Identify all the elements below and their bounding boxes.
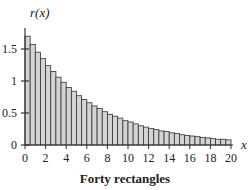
bar	[169, 133, 174, 145]
bar	[210, 139, 215, 145]
bar	[107, 114, 112, 145]
bar	[143, 127, 148, 145]
bar	[46, 66, 51, 145]
bar	[190, 136, 195, 145]
bar	[180, 135, 185, 145]
x-axis-label: x	[240, 137, 247, 152]
y-tick-label: 1	[11, 74, 17, 88]
bar	[97, 109, 102, 145]
bar	[149, 128, 154, 145]
bar	[174, 133, 179, 145]
bar	[92, 106, 97, 145]
bar	[164, 132, 169, 145]
bar	[205, 138, 210, 145]
bar	[221, 139, 226, 145]
bar	[185, 135, 190, 145]
x-tick-label: 8	[104, 151, 110, 165]
bar	[25, 36, 30, 145]
bar	[138, 126, 143, 145]
bar-chart: 00.511.5 02468101214161820 r(x) x	[0, 0, 250, 170]
x-tick-label: 14	[163, 151, 175, 165]
bar	[66, 87, 71, 145]
x-ticks: 02468101214161820	[22, 145, 237, 165]
bar	[77, 96, 82, 145]
bar	[61, 82, 66, 145]
x-tick-label: 12	[143, 151, 155, 165]
bar	[123, 121, 128, 145]
x-tick-label: 20	[225, 151, 237, 165]
bar	[200, 137, 205, 145]
bar	[128, 122, 133, 145]
x-tick-label: 2	[43, 151, 49, 165]
bar	[113, 116, 118, 145]
bar	[102, 112, 107, 145]
x-tick-label: 4	[63, 151, 69, 165]
bar	[118, 118, 123, 145]
x-tick-label: 18	[204, 151, 216, 165]
x-tick-label: 16	[184, 151, 196, 165]
x-tick-label: 10	[122, 151, 134, 165]
y-tick-label: 0	[11, 138, 17, 152]
x-tick-label: 0	[22, 151, 28, 165]
bar	[56, 77, 61, 145]
bar	[40, 59, 45, 145]
bar	[51, 71, 56, 145]
bar	[195, 137, 200, 145]
bar	[159, 131, 164, 145]
chart-caption: Forty rectangles	[0, 171, 250, 187]
y-tick-label: 0.5	[2, 106, 17, 120]
bar	[87, 103, 92, 145]
bar	[154, 130, 159, 145]
bars	[25, 36, 231, 145]
bar	[71, 91, 76, 145]
bar	[82, 100, 87, 145]
bar	[226, 140, 231, 145]
bar	[30, 45, 35, 145]
bar	[133, 124, 138, 145]
y-tick-label: 1.5	[2, 42, 17, 56]
bar	[216, 139, 221, 145]
x-tick-label: 6	[84, 151, 90, 165]
bar	[35, 52, 40, 145]
y-axis-label: r(x)	[30, 5, 50, 20]
